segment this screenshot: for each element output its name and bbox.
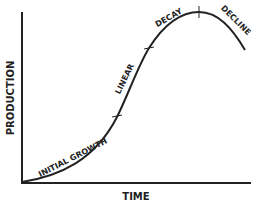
phase-label-decline: DECLINE [219, 4, 252, 37]
x-axis-label: TIME [122, 191, 149, 202]
production-lifecycle-diagram: PRODUCTION TIME INITIAL GROWTH LINEAR DE… [0, 0, 257, 206]
phase-label-linear: LINEAR [114, 62, 136, 95]
y-axis-label: PRODUCTION [5, 61, 16, 136]
production-curve [22, 12, 245, 182]
phase-label-initial-growth: INITIAL GROWTH [37, 137, 109, 179]
